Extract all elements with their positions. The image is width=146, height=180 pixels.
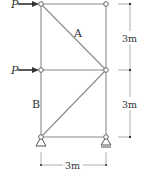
node-top-left: [39, 2, 44, 7]
node-bottom-right: [104, 135, 109, 140]
load-label-top: P: [10, 0, 19, 11]
dimension-label-upper: 3m: [122, 33, 137, 44]
truss-members: [41, 4, 106, 137]
dimension-label-horizontal: 3m: [65, 160, 80, 171]
dimension-ticks: [40, 3, 131, 166]
load-label-middle: P: [10, 64, 19, 77]
dimension-label-lower: 3m: [122, 99, 137, 110]
node-top-right: [104, 2, 109, 7]
arrow-right-icon: [32, 1, 39, 7]
member-label-b: B: [32, 98, 40, 111]
member-label-a: A: [73, 27, 83, 40]
node-middle-right: [104, 68, 109, 73]
node-middle-left: [39, 68, 44, 73]
truss-diagram: P P A B 3m 3m 3m: [0, 0, 146, 180]
loads: P P: [10, 0, 39, 77]
supports: [36, 137, 111, 147]
member-lower-diagonal: [41, 70, 106, 137]
arrow-right-icon: [32, 67, 39, 73]
node-bottom-left: [39, 135, 44, 140]
